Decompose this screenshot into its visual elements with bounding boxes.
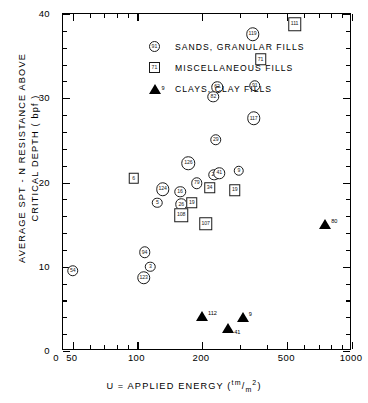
triangle-glyph: [196, 311, 208, 321]
circle-icon: 91: [149, 41, 160, 52]
legend-item: 91SANDS, GRANULAR FILLS: [149, 36, 359, 57]
x-tick-bottom: [342, 345, 343, 349]
x-tick-top: [240, 14, 241, 18]
data-point-square: 111: [288, 17, 302, 31]
triangle-glyph: [222, 323, 234, 333]
x-tick-top: [267, 14, 268, 18]
legend-label: MISCELLANEOUS FILLS: [175, 63, 293, 73]
data-point-square: 6: [128, 173, 139, 184]
x-axis-title-suffix: ): [257, 381, 261, 391]
x-axis-title-sub: m: [245, 386, 252, 393]
y-tick-right: [343, 183, 350, 184]
data-point-triangle: 112: [196, 311, 208, 321]
data-point-square: 19: [186, 197, 198, 209]
x-tick-label: 1000: [340, 352, 363, 363]
y-tick-left: [63, 81, 67, 82]
y-tick-left: [63, 48, 67, 49]
x-tick-top: [319, 14, 320, 18]
y-tick-label: 40: [26, 8, 50, 19]
data-point-label: 112: [208, 310, 217, 316]
y-tick-right: [346, 115, 350, 116]
y-tick-right: [343, 351, 350, 352]
y-tick-right: [346, 199, 350, 200]
y-tick-right: [346, 317, 350, 318]
x-tick-top: [90, 14, 91, 18]
x-tick-bottom: [287, 342, 288, 349]
x-tick-bottom: [117, 345, 118, 349]
data-point-circle: 41: [214, 167, 226, 179]
y-tick-left: [63, 334, 67, 335]
data-point-circle: 3: [145, 262, 156, 273]
y-tick-left: [63, 31, 67, 32]
legend-label: SANDS, GRANULAR FILLS: [175, 42, 305, 52]
y-tick-right: [346, 334, 350, 335]
y-tick-right: [346, 149, 350, 150]
triangle-glyph: [237, 312, 249, 322]
data-point-square: 108: [174, 209, 188, 223]
x-tick-bottom: [331, 345, 332, 349]
y-tick-left: [63, 166, 67, 167]
data-point-triangle: 80: [319, 219, 331, 229]
y-tick-left: [63, 216, 67, 217]
x-tick-bottom: [90, 345, 91, 349]
data-point-circle: 9: [234, 165, 245, 176]
legend-label: CLAYS, CLAY FILLS: [175, 84, 272, 94]
x-axis-title-prefix: U = APPLIED ENERGY (: [106, 381, 231, 391]
y-tick-right: [343, 267, 350, 268]
y-tick-left: [63, 317, 67, 318]
y-tick-label: 20: [26, 176, 50, 187]
legend-item: 71MISCELLANEOUS FILLS: [149, 57, 359, 78]
data-point-circle: 94: [139, 247, 151, 259]
legend-marker-label: 9: [162, 85, 165, 91]
y-tick-right: [346, 233, 350, 234]
y-tick-left: [63, 149, 67, 150]
data-point-circle: 123: [137, 271, 151, 285]
y-tick-right: [346, 216, 350, 217]
legend-marker: 9: [149, 84, 175, 94]
data-point-circle: 124: [156, 182, 170, 196]
y-tick-left: [63, 250, 67, 251]
data-point-triangle: 9: [237, 312, 249, 322]
y-tick-label: 0: [26, 345, 50, 356]
plot-area: 5494312312451626126792241929628291117119…: [62, 13, 351, 350]
x-tick-bottom: [73, 342, 74, 349]
y-tick-right: [346, 166, 350, 167]
x-tick-label: 200: [192, 352, 209, 363]
data-point-circle: 5: [152, 197, 163, 208]
y-tick-right: [346, 31, 350, 32]
x-tick-top: [137, 14, 138, 21]
x-tick-top: [73, 14, 74, 21]
y-tick-left: [63, 65, 67, 66]
y-tick-label: 30: [26, 92, 50, 103]
y-tick-left: [63, 351, 70, 352]
data-point-circle: 29: [210, 134, 222, 146]
data-point-label: 80: [331, 218, 337, 224]
x-tick-bottom: [104, 345, 105, 349]
chart-legend: 91SANDS, GRANULAR FILLS71MISCELLANEOUS F…: [149, 36, 359, 99]
x-tick-bottom: [240, 345, 241, 349]
data-point-label: 41: [234, 329, 240, 335]
x-tick-top: [352, 14, 353, 21]
y-tick-left: [63, 183, 70, 184]
data-point-triangle: 41: [222, 323, 234, 333]
y-tick-left: [63, 199, 67, 200]
y-tick-right: [346, 284, 350, 285]
data-point-circle: 126: [182, 156, 196, 170]
x-tick-top: [128, 14, 129, 18]
y-tick-label: 10: [26, 260, 50, 271]
y-tick-right: [346, 300, 350, 301]
y-tick-left: [63, 14, 70, 15]
x-tick-bottom: [304, 345, 305, 349]
x-tick-top: [202, 14, 203, 21]
data-point-circle: 79: [191, 178, 203, 190]
x-tick-bottom: [202, 342, 203, 349]
y-tick-left: [63, 300, 67, 301]
data-point-square: 34: [204, 182, 216, 194]
x-tick-bottom: [267, 345, 268, 349]
data-point-circle: 54: [67, 265, 79, 277]
y-tick-left: [63, 233, 67, 234]
x-tick-label: 50: [66, 352, 77, 363]
x-tick-bottom: [128, 345, 129, 349]
square-icon: 71: [149, 62, 160, 73]
data-point-square: 19: [229, 184, 241, 196]
